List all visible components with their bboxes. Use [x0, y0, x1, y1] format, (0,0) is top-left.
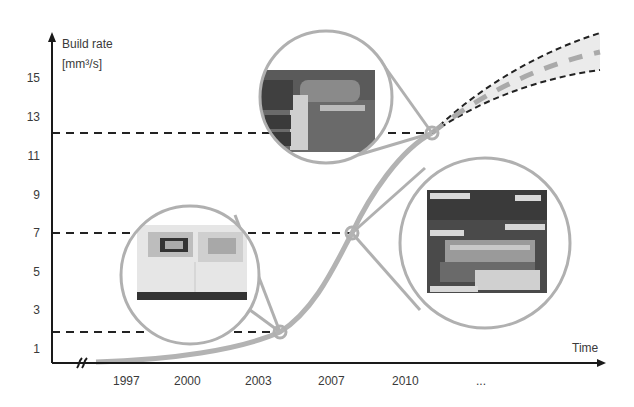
magnifier-2008 [400, 158, 570, 328]
x-tick-label: 2003 [245, 374, 272, 388]
magnifier-2011 [235, 31, 392, 163]
y-tick-label: 7 [33, 226, 40, 240]
y-tick-label: 9 [33, 188, 40, 202]
y-tick-label: 3 [33, 303, 40, 317]
photo-lab-setup [427, 190, 547, 293]
forecast-band [432, 33, 600, 133]
y-tick-label: 11 [28, 149, 41, 163]
x-tick-label: 2000 [174, 374, 201, 388]
y-axis-title: Build rate [62, 37, 113, 51]
y-axis-unit: [mm³/s] [62, 57, 102, 71]
y-tick-label: 15 [27, 71, 41, 85]
chart-canvas: 15 13 11 9 7 5 3 1 Build rate [mm³/s] 19… [0, 0, 634, 407]
x-tick-label: ... [476, 374, 486, 388]
x-axis-title: Time [572, 341, 599, 355]
y-tick-label: 13 [27, 110, 41, 124]
y-tick-label: 1 [33, 342, 40, 356]
magnifier-2004 [121, 206, 259, 344]
photo-machine-closeup [235, 70, 375, 152]
photo-machine-cabinet [137, 225, 247, 300]
y-tick-label: 5 [33, 265, 40, 279]
x-tick-label: 1997 [113, 374, 140, 388]
x-axis-arrow-icon [597, 359, 606, 367]
x-tick-label: 2010 [392, 374, 419, 388]
x-tick-label: 2007 [318, 374, 345, 388]
y-axis-arrow-icon [48, 32, 56, 42]
